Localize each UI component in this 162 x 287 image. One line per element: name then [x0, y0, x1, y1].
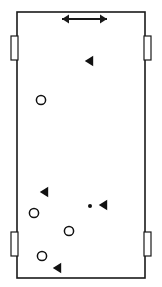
bracket-left-lower [11, 232, 18, 256]
bracket-left-upper [11, 36, 18, 60]
diagram-canvas [0, 0, 162, 287]
dot-1 [88, 204, 92, 208]
court-boundary-group [17, 12, 145, 278]
court-boundary [17, 12, 145, 278]
bracket-right-upper [144, 36, 151, 60]
bracket-right-lower [144, 232, 151, 256]
dot-markers-group [88, 204, 92, 208]
court-diagram [0, 0, 162, 287]
